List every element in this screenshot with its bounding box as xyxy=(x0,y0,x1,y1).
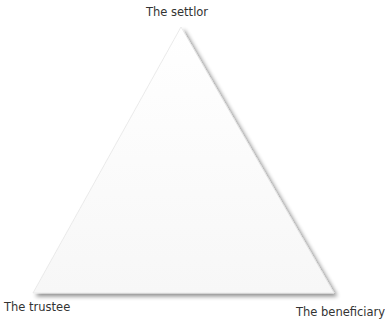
vertex-label-beneficiary: The beneficiary xyxy=(296,305,385,319)
vertex-label-trustee: The trustee xyxy=(4,300,70,314)
triangle-polygon xyxy=(33,27,334,293)
vertex-label-settlor: The settlor xyxy=(146,5,208,19)
